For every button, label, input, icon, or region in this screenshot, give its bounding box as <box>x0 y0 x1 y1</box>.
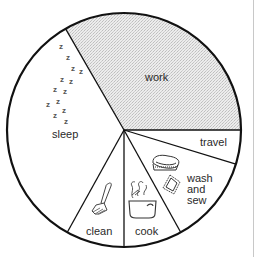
svg-text:z: z <box>69 77 73 86</box>
svg-text:z: z <box>53 85 57 94</box>
svg-text:z: z <box>60 75 64 84</box>
label-clean: clean <box>86 225 112 237</box>
svg-text:z: z <box>66 53 70 62</box>
svg-text:z: z <box>62 106 66 115</box>
label-cook: cook <box>135 225 159 237</box>
svg-text:z: z <box>59 42 63 51</box>
svg-text:z: z <box>64 117 68 126</box>
pie-chart: work travel wash and sew cook clean slee… <box>0 0 257 257</box>
svg-text:z: z <box>63 87 67 96</box>
label-sew: sew <box>187 194 207 206</box>
label-work: work <box>144 71 169 83</box>
right-edge-rule <box>253 0 254 257</box>
label-sleep: sleep <box>52 128 78 140</box>
svg-text:z: z <box>46 100 50 109</box>
svg-text:z: z <box>56 97 60 106</box>
svg-text:z: z <box>71 64 75 73</box>
label-travel: travel <box>200 136 227 148</box>
svg-text:z: z <box>79 67 83 76</box>
svg-text:z: z <box>53 111 57 120</box>
